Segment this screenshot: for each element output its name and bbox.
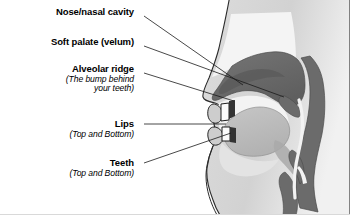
upper-lip — [208, 104, 223, 123]
label-title-soft-palate: Soft palate (velum) — [0, 37, 134, 48]
label-lips: Lips (Top and Bottom) — [0, 119, 134, 139]
label-nose-nasal-cavity: Nose/nasal cavity — [0, 7, 134, 18]
label-title-nose: Nose/nasal cavity — [0, 7, 134, 18]
upper-alveolar-ridge — [229, 100, 235, 119]
label-sub-teeth-line-1: (Top and Bottom) — [0, 169, 134, 179]
upper-teeth — [221, 103, 229, 121]
label-sub-alveolar-line-2: your teeth) — [0, 84, 134, 94]
label-teeth: Teeth (Top and Bottom) — [0, 158, 134, 178]
label-soft-palate-velum: Soft palate (velum) — [0, 37, 134, 48]
label-sub-lips-line-1: (Top and Bottom) — [0, 130, 134, 140]
label-sub-teeth: (Top and Bottom) — [0, 169, 134, 179]
label-sub-lips: (Top and Bottom) — [0, 130, 134, 140]
lower-alveolar-ridge — [230, 127, 236, 143]
label-sub-alveolar-ridge: (The bump behind your teeth) — [0, 75, 134, 94]
diagram-page: Nose/nasal cavity Soft palate (velum) Al… — [0, 0, 350, 215]
label-alveolar-ridge: Alveolar ridge (The bump behind your tee… — [0, 64, 134, 94]
vocal-tract-diagram — [0, 0, 350, 215]
